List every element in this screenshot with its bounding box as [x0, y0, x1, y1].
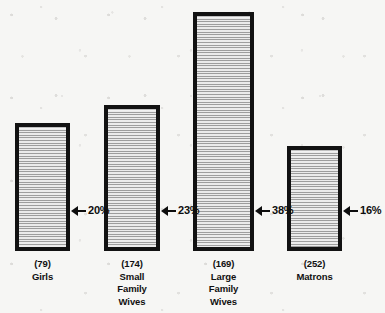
- category-name-1-line-1: Girls: [2, 271, 83, 284]
- category-label-2: (174) Small Family Wives: [92, 258, 172, 308]
- bar-1-girls: [15, 123, 70, 251]
- category-name-2-line-3: Wives: [92, 296, 172, 309]
- count-label-1: (79): [2, 258, 83, 271]
- left-arrow-icon: [161, 205, 176, 216]
- category-name-2-line-1: Small: [92, 271, 172, 284]
- count-label-2: (174): [92, 258, 172, 271]
- category-name-3-line-2: Family: [184, 283, 263, 296]
- category-label-1: (79) Girls: [2, 258, 83, 283]
- left-arrow-icon: [343, 205, 358, 216]
- value-label-bar-4: 16%: [360, 205, 381, 216]
- bar-3-large-family-wives: [193, 12, 254, 251]
- category-name-4-line-1: Matrons: [274, 271, 355, 284]
- bar-2-small-family-wives: [104, 105, 160, 251]
- value-annotation-bar-4: 16%: [343, 205, 381, 216]
- category-name-2-line-2: Family: [92, 283, 172, 296]
- left-arrow-icon: [71, 205, 86, 216]
- value-annotation-bar-3: 38%: [255, 205, 293, 216]
- value-label-bar-1: 20%: [88, 205, 109, 216]
- value-label-bar-3: 38%: [272, 205, 293, 216]
- count-label-3: (169): [184, 258, 263, 271]
- left-arrow-icon: [255, 205, 270, 216]
- category-label-3: (169) Large Family Wives: [184, 258, 263, 308]
- count-label-4: (252): [274, 258, 355, 271]
- category-name-3-line-3: Wives: [184, 296, 263, 309]
- value-annotation-bar-2: 23%: [161, 205, 199, 216]
- value-label-bar-2: 23%: [178, 205, 199, 216]
- bar-4-matrons: [287, 146, 342, 251]
- category-label-4: (252) Matrons: [274, 258, 355, 283]
- category-name-3-line-1: Large: [184, 271, 263, 284]
- value-annotation-bar-1: 20%: [71, 205, 109, 216]
- bar-chart: 20% 23% 38% 16% (79) Girls (174) Small F…: [0, 0, 385, 313]
